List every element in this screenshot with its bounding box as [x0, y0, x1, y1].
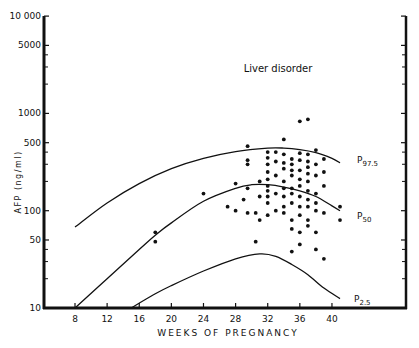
y-tick-label: 100 — [24, 206, 41, 216]
y-tick-label: 1000 — [18, 108, 41, 118]
curve-label-p50: P50 — [357, 211, 371, 224]
data-point — [266, 156, 270, 160]
data-point — [306, 152, 310, 156]
y-tick-label: 50 — [30, 235, 42, 245]
data-point — [306, 198, 310, 202]
x-tick-label: 20 — [166, 314, 178, 324]
data-point — [153, 240, 157, 244]
data-point — [298, 205, 302, 209]
data-point — [266, 150, 270, 154]
x-tick-label: 28 — [230, 314, 242, 324]
data-point — [246, 211, 250, 215]
y-tick-label: 10 — [30, 303, 42, 313]
data-point — [306, 180, 310, 184]
data-point — [246, 186, 250, 190]
data-point — [258, 195, 262, 199]
data-point — [258, 180, 262, 184]
data-points — [153, 117, 341, 260]
data-point — [298, 119, 302, 123]
data-point — [254, 211, 258, 215]
data-point — [274, 160, 278, 164]
data-point — [242, 198, 246, 202]
data-point — [290, 227, 294, 231]
data-point — [322, 211, 326, 215]
data-point — [338, 218, 342, 222]
curve-labels: P97.5P50P2.5 — [354, 155, 378, 307]
data-point — [306, 218, 310, 222]
data-point — [234, 209, 238, 213]
data-point — [254, 240, 258, 244]
data-point — [322, 157, 326, 161]
data-point — [290, 250, 294, 254]
data-point — [298, 168, 302, 172]
data-point — [246, 158, 250, 162]
x-tick-label: 8 — [72, 314, 78, 324]
data-point — [306, 117, 310, 121]
data-point — [322, 170, 326, 174]
data-point — [290, 186, 294, 190]
data-point — [282, 195, 286, 199]
data-point — [282, 152, 286, 156]
data-point — [290, 174, 294, 178]
data-point — [282, 161, 286, 165]
data-point — [246, 144, 250, 148]
data-point — [298, 177, 302, 181]
chart-title: Liver disorder — [244, 63, 314, 74]
data-point — [290, 192, 294, 196]
x-tick-label: 16 — [134, 314, 146, 324]
data-point — [314, 192, 318, 196]
data-point — [314, 209, 318, 213]
curve-label-p97-5: P97.5 — [357, 155, 378, 168]
data-point — [290, 218, 294, 222]
x-tick-label: 36 — [294, 314, 306, 324]
data-point — [234, 182, 238, 186]
plot-frame — [43, 16, 407, 309]
x-tick-label: 40 — [326, 314, 338, 324]
data-point — [282, 180, 286, 184]
y-tick-label: 500 — [24, 138, 41, 148]
data-point — [282, 186, 286, 190]
data-point — [298, 184, 302, 188]
data-point — [282, 205, 286, 209]
data-point — [274, 192, 278, 196]
data-point — [258, 218, 262, 222]
data-point — [246, 162, 250, 166]
data-point — [306, 189, 310, 193]
data-point — [298, 151, 302, 155]
data-point — [314, 248, 318, 252]
data-point — [298, 158, 302, 162]
afp-chart: 10501005001000500010 000 812162024283236… — [0, 0, 419, 348]
data-point — [314, 174, 318, 178]
data-point — [202, 192, 206, 196]
data-point — [314, 162, 318, 166]
data-point — [290, 168, 294, 172]
y-axis-ticks: 10501005001000500010 000 — [10, 11, 407, 313]
data-point — [322, 184, 326, 188]
data-point — [338, 205, 342, 209]
data-point — [298, 243, 302, 247]
y-axis-label: AFP (ng/ml) — [14, 150, 23, 213]
data-point — [266, 195, 270, 199]
data-point — [314, 148, 318, 152]
data-point — [266, 177, 270, 181]
data-point — [306, 165, 310, 169]
data-point — [306, 160, 310, 164]
data-point — [314, 230, 318, 234]
data-point — [282, 138, 286, 142]
data-point — [306, 224, 310, 228]
data-point — [298, 230, 302, 234]
curve-label-p2-5: P2.5 — [354, 294, 371, 307]
data-point — [153, 230, 157, 234]
data-point — [266, 162, 270, 166]
data-point — [226, 205, 230, 209]
x-tick-label: 32 — [262, 314, 273, 324]
x-tick-label: 24 — [198, 314, 210, 324]
data-point — [266, 170, 270, 174]
data-point — [266, 213, 270, 217]
data-point — [274, 150, 278, 154]
data-point — [298, 213, 302, 217]
data-point — [266, 189, 270, 193]
x-axis-ticks: 81216202428323640 — [72, 303, 338, 324]
data-point — [290, 201, 294, 205]
data-point — [298, 195, 302, 199]
